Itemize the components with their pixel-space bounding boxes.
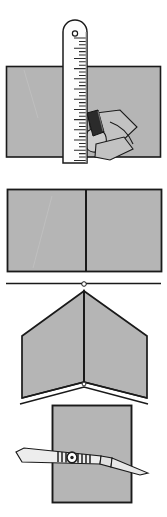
fold-left-wing (22, 291, 84, 398)
crease-apex-mark (82, 382, 86, 386)
card-sheet (8, 190, 162, 272)
ruler-hanging-hole (72, 31, 77, 36)
panel-score (7, 20, 161, 163)
instructional-illustration: Scoring and folding a card sheet Step 1:… (0, 0, 167, 517)
panel-folded (20, 291, 148, 404)
steel-ruler (63, 20, 87, 163)
panel-trim (16, 406, 148, 503)
panel-scored-flat (8, 190, 162, 272)
panel-divider-1 (6, 282, 161, 287)
illustration-canvas (0, 0, 167, 517)
fold-right-wing (84, 291, 147, 398)
ruler-edge-shade (85, 32, 87, 163)
knife-grip-dot (70, 456, 73, 459)
